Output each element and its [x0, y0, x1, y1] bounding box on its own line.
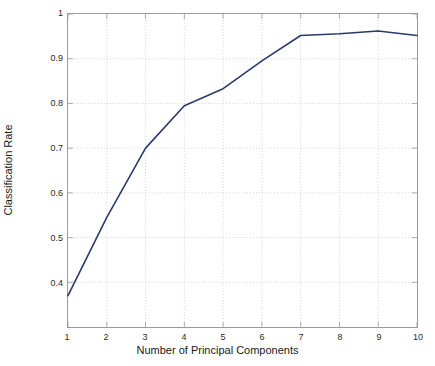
x-axis-title: Number of Principal Components — [0, 344, 435, 356]
x-tick-label: 3 — [142, 333, 147, 342]
y-tick-label: 0.9 — [50, 54, 63, 63]
x-tick-label: 4 — [181, 333, 186, 342]
x-tick-label: 10 — [413, 333, 423, 342]
y-axis-title: Classification Rate — [2, 124, 14, 215]
data-line-series-0 — [68, 31, 417, 296]
data-series-layer — [68, 14, 417, 327]
y-tick-label: 0.8 — [50, 99, 63, 108]
y-tick-label: 1 — [58, 9, 63, 18]
y-tick-label: 0.5 — [50, 234, 63, 243]
y-tick-label: 0.4 — [50, 279, 63, 288]
x-tick-label: 5 — [220, 333, 225, 342]
x-tick-label: 8 — [337, 333, 342, 342]
x-tick-label: 9 — [376, 333, 381, 342]
chart-figure: 0.40.50.60.70.80.91 12345678910 Number o… — [0, 0, 435, 366]
plot-area — [67, 13, 418, 328]
x-tick-label: 2 — [103, 333, 108, 342]
x-tick-label: 1 — [64, 333, 69, 342]
y-tick-label: 0.7 — [50, 144, 63, 153]
y-tick-label: 0.6 — [50, 189, 63, 198]
x-tick-label: 6 — [259, 333, 264, 342]
x-tick-label: 7 — [298, 333, 303, 342]
